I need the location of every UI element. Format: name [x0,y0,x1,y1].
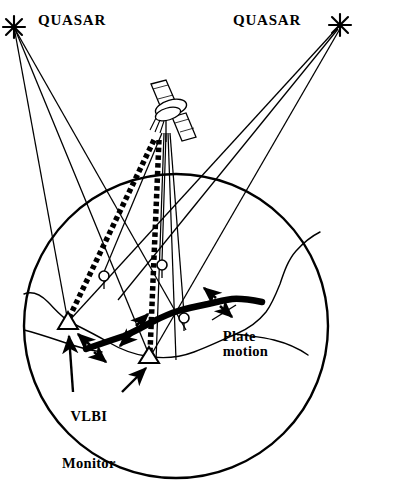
vlbi-geodesy-diagram [0,0,403,493]
quasar-right [329,14,351,36]
quasar-right-label: QUASAR [233,12,301,28]
satellite [150,80,196,142]
quasar-left-label: QUASAR [38,12,106,28]
plate-motion-label: Plate motion [215,313,268,360]
vlbi-label-line2: Monitor [62,456,116,472]
plate-motion-line1: Plate [223,328,256,344]
quasar-left [3,16,25,38]
vlbi-label-line1: VLBI [62,409,116,425]
vlbi-monitor-sites-label: VLBI Monitor sites [62,378,116,493]
plate-motion-line2: motion [223,343,268,359]
